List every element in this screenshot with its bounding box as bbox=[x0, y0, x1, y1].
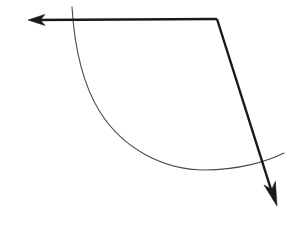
figure-canvas bbox=[0, 0, 294, 242]
line-drawing-svg bbox=[0, 0, 294, 242]
horizontal-ray bbox=[32, 19, 217, 20]
